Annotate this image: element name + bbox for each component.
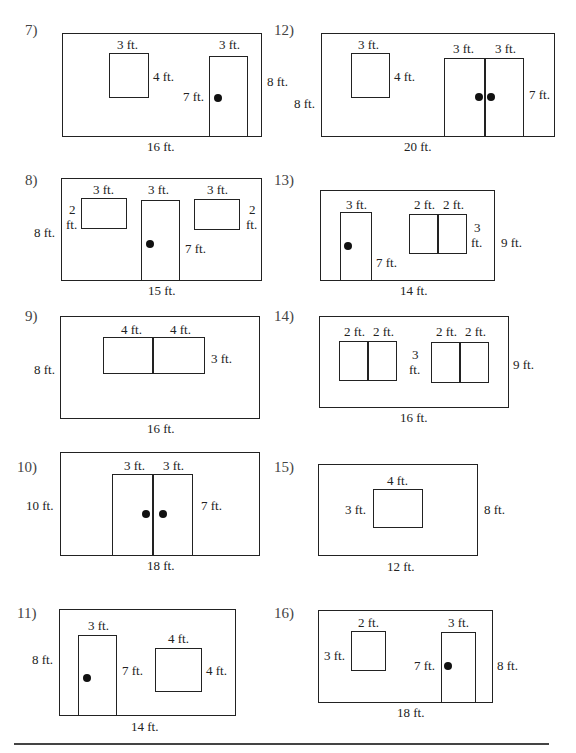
right-window-pane: [152, 337, 205, 374]
wall-height-label: 8 ft.: [32, 653, 53, 667]
problem-number: 7): [25, 22, 38, 39]
window-height-label: 3 ft.: [211, 352, 232, 366]
right-door-width-label: 3 ft.: [163, 459, 184, 473]
wall-height-label: 8 ft.: [497, 659, 518, 673]
window-height-label: 3: [412, 348, 419, 362]
door-knob-icon: [142, 510, 150, 518]
window: [351, 631, 386, 671]
window-width-label: 3 ft.: [358, 38, 379, 52]
right-window-height-label: 2: [249, 203, 256, 217]
wall-width-label: 18 ft.: [147, 559, 174, 573]
window-height-label: 4 ft.: [206, 664, 227, 678]
right-window-left-pane: [431, 342, 461, 383]
left-window: [81, 198, 127, 229]
right-window-height-unit: ft.: [246, 218, 257, 232]
left-door-width-label: 3 ft.: [453, 42, 474, 56]
window: [351, 53, 390, 98]
left-door-width-label: 3 ft.: [124, 459, 145, 473]
window-width-label: 2 ft.: [358, 616, 379, 630]
problem-number: 8): [25, 172, 38, 189]
problem-number: 16): [274, 605, 294, 622]
window-width-label: 4 ft.: [387, 474, 408, 488]
window-pane-width-label: 2 ft.: [414, 198, 435, 212]
problem-number: 13): [274, 172, 294, 189]
door-width-label: 3 ft.: [148, 183, 169, 197]
left-window-height-unit: ft.: [66, 218, 77, 232]
door-height-label: 7 ft.: [122, 664, 143, 678]
window-height-label: 3: [474, 221, 481, 235]
right-window-pane: [437, 214, 467, 254]
left-window-pane: [409, 214, 439, 254]
footer-divider: [14, 743, 549, 745]
door-height-label: 7 ft.: [201, 499, 222, 513]
door-height-label: 7 ft.: [414, 659, 435, 673]
door-height-label: 7 ft.: [185, 242, 206, 256]
wall-width-label: 20 ft.: [404, 140, 431, 154]
door-width-label: 3 ft.: [448, 616, 469, 630]
wall-width-label: 12 ft.: [387, 560, 414, 574]
problem-number: 10): [17, 459, 37, 476]
right-door-width-label: 3 ft.: [495, 42, 516, 56]
left-window-height-label: 2: [69, 203, 76, 217]
left-window-right-pane: [367, 341, 397, 381]
window-height-label: 4 ft.: [153, 70, 174, 84]
window-pane-width-label: 4 ft.: [170, 323, 191, 337]
door-knob-icon: [344, 242, 352, 250]
wall-height-label: 10 ft.: [26, 499, 53, 513]
door-height-label: 7 ft.: [529, 88, 550, 102]
problem-number: 12): [274, 22, 294, 39]
window-pane-width-label: 2 ft.: [436, 325, 457, 339]
wall-height-label: 8 ft.: [294, 97, 315, 111]
right-window-right-pane: [459, 342, 489, 383]
right-window: [194, 199, 240, 230]
problem-number: 11): [17, 605, 36, 622]
window-height-label: 4 ft.: [394, 70, 415, 84]
window-width-label: 3 ft.: [117, 38, 138, 52]
window: [373, 489, 423, 528]
window-height-label: 3 ft.: [345, 503, 366, 517]
wall-height-label: 8 ft.: [34, 226, 55, 240]
problem-number: 14): [274, 308, 294, 325]
window-height-label: 3 ft.: [324, 649, 345, 663]
left-window-width-label: 3 ft.: [93, 183, 114, 197]
window: [109, 53, 149, 98]
wall-height-label: 8 ft.: [267, 75, 288, 89]
problem-number: 15): [274, 459, 294, 476]
wall-height-label: 9 ft.: [513, 358, 534, 372]
door-height-label: 7 ft.: [376, 256, 397, 270]
wall-width-label: 18 ft.: [397, 706, 424, 720]
wall-width-label: 14 ft.: [400, 284, 427, 298]
window: [155, 648, 202, 692]
left-window-pane: [103, 337, 154, 374]
problem-number: 9): [25, 308, 38, 325]
wall-height-label: 8 ft.: [34, 363, 55, 377]
wall-height-label: 8 ft.: [484, 503, 505, 517]
window-pane-width-label: 2 ft.: [465, 325, 486, 339]
wall-width-label: 16 ft.: [400, 411, 427, 425]
window-pane-width-label: 2 ft.: [344, 325, 365, 339]
door-knob-icon: [159, 510, 167, 518]
door-width-label: 3 ft.: [219, 38, 240, 52]
door-knob-icon: [83, 674, 91, 682]
left-window-left-pane: [339, 341, 369, 381]
door-knob-icon: [146, 240, 154, 248]
window-height-unit: ft.: [471, 236, 482, 250]
window-width-label: 4 ft.: [168, 632, 189, 646]
door-knob-icon: [487, 93, 495, 101]
wall-width-label: 14 ft.: [131, 720, 158, 734]
door-knob-icon: [444, 662, 452, 670]
wall-width-label: 16 ft.: [147, 140, 174, 154]
door-width-label: 3 ft.: [88, 619, 109, 633]
wall-width-label: 15 ft.: [148, 284, 175, 298]
door-knob-icon: [214, 94, 222, 102]
wall-width-label: 16 ft.: [147, 422, 174, 436]
door-width-label: 3 ft.: [346, 198, 367, 212]
door-height-label: 7 ft.: [183, 90, 204, 104]
window-pane-width-label: 2 ft.: [373, 325, 394, 339]
right-window-width-label: 3 ft.: [207, 183, 228, 197]
door-knob-icon: [475, 93, 483, 101]
window-pane-width-label: 4 ft.: [121, 323, 142, 337]
window-height-unit: ft.: [409, 363, 420, 377]
wall-height-label: 9 ft.: [501, 236, 522, 250]
window-pane-width-label: 2 ft.: [443, 198, 464, 212]
